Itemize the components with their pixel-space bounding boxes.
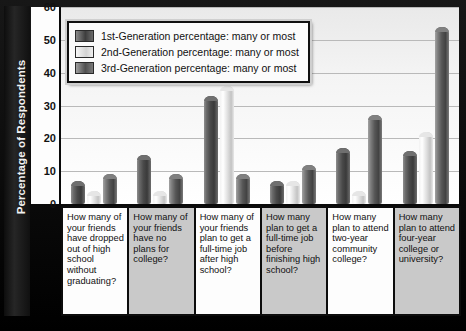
bar[interactable] <box>302 165 316 204</box>
bar[interactable] <box>270 181 284 204</box>
legend-swatch-icon <box>75 30 94 42</box>
legend-item[interactable]: 3rd-Generation percentage: many or most <box>75 60 299 76</box>
category-label: How many plan to attend two-year communi… <box>326 206 394 316</box>
bar[interactable] <box>87 191 101 204</box>
bar[interactable] <box>71 181 85 204</box>
legend-label: 1st-Generation percentage: many or most <box>101 30 295 42</box>
legend-box: 1st-Generation percentage: many or most2… <box>67 21 310 83</box>
bar[interactable] <box>103 174 117 204</box>
bar-group <box>326 7 392 204</box>
y-axis-title-strip: Percentage of Respondents <box>4 6 30 316</box>
bar[interactable] <box>286 181 300 204</box>
bar[interactable] <box>336 148 350 204</box>
category-label: How many of your friends plan to get a f… <box>194 206 262 316</box>
legend-swatch-icon <box>75 46 94 58</box>
legend-label: 2nd-Generation percentage: many or most <box>101 46 299 58</box>
category-label: How many of your friends have dropped ou… <box>61 206 129 316</box>
y-tick-20: 20 <box>44 132 56 144</box>
bar[interactable] <box>419 132 433 204</box>
bar[interactable] <box>169 174 183 204</box>
legend-item[interactable]: 1st-Generation percentage: many or most <box>75 28 299 44</box>
y-tick-50: 50 <box>44 34 56 46</box>
chart-figure: Percentage of Respondents 6050403020100 … <box>0 0 466 331</box>
bar[interactable] <box>435 27 449 204</box>
legend-item[interactable]: 2nd-Generation percentage: many or most <box>75 44 299 60</box>
y-tick-10: 10 <box>44 165 56 177</box>
bar[interactable] <box>368 115 382 204</box>
bar[interactable] <box>137 155 151 204</box>
y-tick-30: 30 <box>44 100 56 112</box>
bar[interactable] <box>236 174 250 204</box>
legend-label: 3rd-Generation percentage: many or most <box>101 62 297 74</box>
category-label: How many of your friends have no plans f… <box>127 206 195 316</box>
bar[interactable] <box>153 191 167 204</box>
y-tick-60: 60 <box>44 1 56 13</box>
bar-group <box>393 7 459 204</box>
y-tick-40: 40 <box>44 67 56 79</box>
bar[interactable] <box>352 191 366 204</box>
category-label: How many plan to attend four-year colleg… <box>393 206 461 316</box>
category-label-strip: How many of your friends have dropped ou… <box>61 206 459 316</box>
bar[interactable] <box>204 96 218 204</box>
y-tick-0: 0 <box>50 198 56 210</box>
category-label: How many plan to get a full-time job bef… <box>260 206 328 316</box>
bar[interactable] <box>403 151 417 204</box>
legend-swatch-icon <box>75 62 94 74</box>
plot-area-wrapper: 6050403020100 1st-Generation percentage:… <box>31 7 459 317</box>
bar[interactable] <box>220 86 234 204</box>
y-axis-tick-labels: 6050403020100 <box>31 7 61 204</box>
